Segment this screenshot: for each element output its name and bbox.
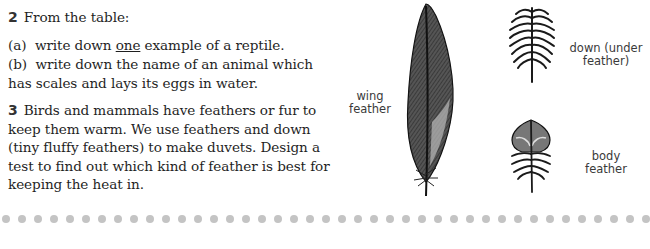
divider-dot — [546, 215, 554, 223]
question-2-heading: 2From the table: — [8, 8, 129, 27]
divider-dot — [2, 215, 10, 223]
divider-dot — [642, 215, 650, 223]
part-text: has scales and lays its eggs in water. — [8, 75, 258, 91]
divider-dot — [594, 215, 602, 223]
dotted-divider — [0, 215, 649, 225]
divider-dot — [258, 215, 266, 223]
divider-dot — [626, 215, 634, 223]
divider-dot — [226, 215, 234, 223]
divider-dot — [562, 215, 570, 223]
divider-dot — [82, 215, 90, 223]
divider-dot — [98, 215, 106, 223]
divider-dot — [194, 215, 202, 223]
question-intro: From the table: — [24, 9, 130, 25]
part-label: (a) — [8, 37, 26, 53]
divider-dot — [466, 215, 474, 223]
part-text: write down the name of an animal which — [35, 56, 313, 72]
question-text-line: keeping the heat in. — [8, 176, 144, 192]
question-number: 3 — [8, 102, 18, 118]
divider-dot — [130, 215, 138, 223]
divider-dot — [418, 215, 426, 223]
divider-dot — [530, 215, 538, 223]
question-text-line: (tiny fluffy feathers) to make duvets. D… — [8, 139, 320, 155]
question-number: 2 — [8, 9, 18, 25]
divider-dot — [66, 215, 74, 223]
divider-dot — [354, 215, 362, 223]
divider-dot — [578, 215, 586, 223]
divider-dot — [162, 215, 170, 223]
question-2a: (a) write down one example of a reptile. — [8, 36, 284, 55]
divider-dot — [498, 215, 506, 223]
divider-dot — [450, 215, 458, 223]
underlined-word: one — [116, 37, 141, 53]
label-line: feather) — [583, 54, 629, 68]
divider-dot — [370, 215, 378, 223]
divider-dot — [34, 215, 42, 223]
body-feather-label: bodyfeather — [578, 150, 634, 175]
divider-dot — [50, 215, 58, 223]
down-feather-label: down (underfeather) — [566, 42, 646, 67]
divider-dot — [114, 215, 122, 223]
divider-dot — [322, 215, 330, 223]
divider-dot — [514, 215, 522, 223]
divider-dot — [210, 215, 218, 223]
divider-dot — [290, 215, 298, 223]
question-text-line: Birds and mammals have feathers or fur t… — [24, 102, 317, 118]
part-text: example of a reptile. — [140, 37, 284, 53]
label-line: feather — [585, 162, 627, 176]
question-text-line: keep them warm. We use feathers and down — [8, 121, 310, 137]
divider-dot — [242, 215, 250, 223]
question-2b: (b) write down the name of an animal whi… — [8, 55, 313, 92]
divider-dot — [338, 215, 346, 223]
divider-dot — [178, 215, 186, 223]
divider-dot — [274, 215, 282, 223]
wing-feather-label: wingfeather — [345, 90, 395, 115]
part-text: write down — [35, 37, 116, 53]
part-label: (b) — [8, 56, 27, 72]
label-line: feather — [349, 102, 391, 116]
body-feather-illustration — [508, 118, 554, 194]
divider-dot — [386, 215, 394, 223]
divider-dot — [18, 215, 26, 223]
question-text-line: test to find out which kind of feather i… — [8, 158, 330, 174]
divider-dot — [434, 215, 442, 223]
wing-feather-illustration — [402, 2, 458, 198]
divider-dot — [306, 215, 314, 223]
divider-dot — [482, 215, 490, 223]
divider-dot — [402, 215, 410, 223]
divider-dot — [146, 215, 154, 223]
down-feather-illustration — [506, 4, 558, 84]
question-3: 3Birds and mammals have feathers or fur … — [8, 101, 330, 194]
divider-dot — [610, 215, 618, 223]
